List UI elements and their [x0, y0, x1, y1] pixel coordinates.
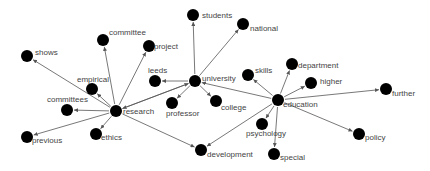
node-development: development — [195, 144, 254, 159]
node-skills: skills — [242, 66, 272, 81]
node-further: further — [380, 83, 415, 98]
edge-research-to-project — [119, 52, 146, 105]
node-higher: higher — [305, 77, 343, 89]
edge-education-to-further — [285, 90, 379, 100]
node-label: project — [154, 42, 179, 51]
node-label: department — [298, 61, 339, 70]
node-circle — [286, 58, 298, 70]
node-circle — [237, 18, 249, 30]
node-label: shows — [35, 48, 58, 57]
node-circle — [149, 75, 161, 87]
node-committee: committee — [97, 28, 146, 46]
node-department: department — [286, 58, 339, 70]
node-policy: policy — [353, 128, 385, 142]
node-circle — [110, 105, 122, 117]
node-committees: committees — [47, 95, 88, 116]
node-empirical: empirical — [77, 75, 109, 95]
node-circle — [61, 104, 73, 116]
edge-research-to-committees — [74, 110, 109, 111]
edge-education-to-psychology — [266, 106, 274, 118]
node-circle — [189, 75, 201, 87]
node-research: research — [110, 105, 154, 117]
node-college: college — [210, 95, 247, 112]
edge-research-to-empirical — [97, 94, 111, 107]
node-shows: shows — [21, 48, 58, 62]
edge-education-to-skills — [253, 80, 272, 96]
node-psychology: psychology — [246, 118, 286, 138]
node-label: ethics — [101, 133, 122, 142]
node-circle — [166, 97, 178, 109]
node-circle — [380, 83, 392, 95]
network-diagram: studentsnationalcommitteeprojectshowslee… — [0, 0, 430, 171]
node-label: skills — [255, 66, 272, 75]
edge-education-to-university — [202, 83, 271, 99]
node-circle — [21, 50, 33, 62]
node-label: college — [221, 103, 247, 112]
node-label: previous — [32, 136, 62, 145]
edge-education-to-special — [275, 107, 278, 147]
node-label: education — [283, 100, 318, 109]
edge-university-to-students — [193, 22, 195, 74]
node-circle — [242, 69, 254, 81]
edge-education-to-higher — [284, 86, 305, 97]
node-circle — [187, 9, 199, 21]
node-circle — [268, 148, 280, 160]
node-national: national — [237, 18, 278, 33]
edge-university-to-national — [200, 29, 239, 75]
node-label: research — [123, 107, 154, 116]
node-label: empirical — [77, 75, 109, 84]
node-label: committee — [109, 28, 146, 37]
node-professor: professor — [166, 97, 200, 118]
edge-research-to-ethics — [101, 116, 112, 128]
node-label: professor — [166, 109, 200, 118]
node-education: education — [272, 94, 318, 109]
node-leeds: leeds — [148, 66, 167, 87]
node-circle — [97, 34, 109, 46]
node-circle — [353, 128, 365, 140]
node-circle — [86, 83, 98, 95]
node-label: university — [202, 74, 236, 83]
node-label: leeds — [148, 66, 167, 75]
node-students: students — [187, 9, 232, 21]
node-label: committees — [47, 95, 88, 104]
node-label: national — [250, 24, 278, 33]
node-project: project — [143, 40, 179, 52]
node-circle — [195, 144, 207, 156]
edge-education-to-department — [281, 71, 290, 94]
node-label: special — [280, 153, 305, 162]
node-label: further — [392, 89, 415, 98]
node-label: development — [207, 150, 254, 159]
node-label: higher — [320, 77, 343, 86]
edge-university-to-professor — [177, 86, 190, 98]
edge-research-to-university — [123, 84, 189, 109]
node-label: students — [202, 11, 232, 20]
node-label: policy — [365, 133, 385, 142]
node-special: special — [268, 148, 305, 162]
edge-research-to-development — [122, 114, 194, 147]
edge-university-to-college — [200, 86, 211, 96]
node-label: psychology — [246, 129, 286, 138]
node-ethics: ethics — [90, 128, 122, 142]
node-circle — [305, 77, 317, 89]
